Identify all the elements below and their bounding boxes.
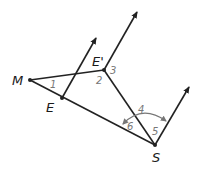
point-m-dot	[28, 78, 32, 82]
angle-5-label: 5	[152, 126, 158, 137]
segment-eprime-s	[104, 70, 155, 145]
ray-from-e	[62, 38, 96, 98]
angle-3-label: 3	[110, 65, 116, 76]
angle-1-label: 1	[50, 79, 56, 90]
angle-6-label: 6	[127, 121, 133, 132]
angle-2-label: 2	[96, 75, 102, 86]
point-e-label: E	[46, 100, 55, 115]
angle-4-label: 4	[138, 104, 144, 115]
ray-from-s	[155, 87, 189, 145]
point-e-dot	[60, 96, 64, 100]
geometry-diagram: M E E' S 1 2 3 4 5 6	[0, 0, 200, 170]
ray-from-eprime	[104, 12, 137, 70]
point-m-label: M	[12, 73, 23, 88]
segment-m-eprime	[30, 70, 104, 80]
point-s-dot	[153, 143, 157, 147]
point-eprime-label: E'	[92, 54, 104, 69]
point-s-label: S	[152, 150, 160, 165]
